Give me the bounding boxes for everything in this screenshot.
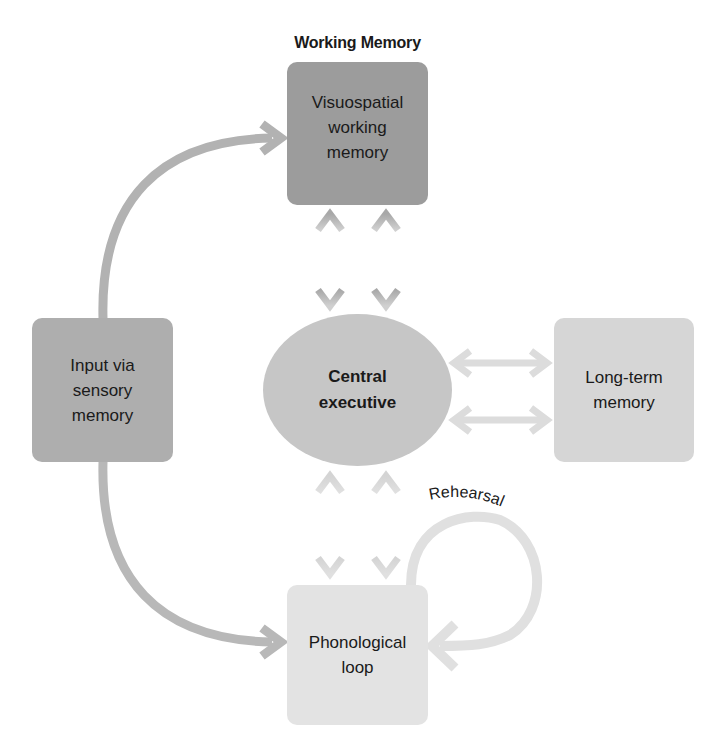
arrows-visuospatial-central	[318, 214, 398, 306]
arrow-input-to-phonological	[103, 462, 281, 656]
node-label-line: Input via	[70, 353, 134, 378]
node-label-line: memory	[70, 403, 134, 428]
node-label-line: Phonological	[309, 630, 406, 655]
arrow-input-to-visuospatial	[103, 124, 281, 318]
node-label-line: memory	[312, 140, 403, 165]
arrows-central-phonological	[318, 476, 398, 574]
node-label-line: Central	[319, 364, 397, 390]
node-label-line: memory	[585, 390, 662, 415]
visuospatial-working-memory-box: Visuospatial working memory	[287, 62, 428, 205]
central-executive-ellipse: Central executive	[263, 314, 452, 466]
node-label-line: sensory	[70, 378, 134, 403]
input-sensory-memory-box: Input via sensory memory	[32, 318, 173, 462]
node-label-line: executive	[319, 390, 397, 416]
rehearsal-label: Rehearsal	[427, 483, 507, 509]
phonological-loop-box: Phonological loop	[287, 585, 428, 725]
arrows-central-longterm	[454, 351, 547, 432]
diagram-title: Working Memory	[287, 34, 428, 52]
node-label-line: Visuospatial	[312, 90, 403, 115]
rehearsal-loop-arrow	[411, 517, 537, 668]
long-term-memory-box: Long-term memory	[554, 318, 694, 462]
node-label-line: working	[312, 115, 403, 140]
node-label-line: loop	[309, 655, 406, 680]
node-label-line: Long-term	[585, 365, 662, 390]
